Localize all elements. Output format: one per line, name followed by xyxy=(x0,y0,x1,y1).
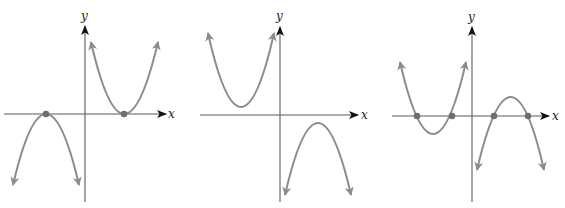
x-axis-label: x xyxy=(168,107,175,121)
y-axis-label: y xyxy=(80,9,88,23)
root-point xyxy=(449,113,456,120)
x-axis-label: x xyxy=(361,108,368,122)
double-root-point xyxy=(121,111,128,118)
y-axis-label: y xyxy=(467,10,475,24)
graph-3: x y xyxy=(392,10,559,202)
root-point xyxy=(414,113,421,120)
root-point xyxy=(491,113,498,120)
right-branch-curve xyxy=(477,97,544,170)
root-point xyxy=(525,113,532,120)
right-branch-curve xyxy=(91,42,158,114)
left-branch-curve xyxy=(208,33,274,107)
double-root-point xyxy=(43,111,50,118)
graph-2: x y xyxy=(200,9,368,202)
x-axis-label: x xyxy=(552,109,559,123)
left-branch-curve xyxy=(400,62,466,134)
y-axis-label: y xyxy=(275,9,283,23)
graph-1: x y xyxy=(4,9,175,202)
left-branch-curve xyxy=(13,114,79,185)
right-branch-curve xyxy=(285,123,351,195)
parabola-graphs-figure: x y x y x y xyxy=(0,0,565,208)
